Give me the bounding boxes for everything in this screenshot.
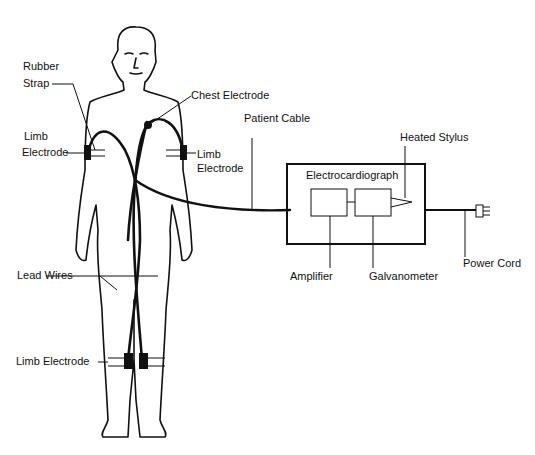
label-amplifier: Amplifier [290, 270, 333, 283]
label-patient-cable: Patient Cable [244, 112, 310, 125]
label-galvanometer: Galvanometer [369, 270, 438, 283]
label-lead-wires: Lead Wires [17, 269, 73, 282]
label-limb-electrode-left: Limb [24, 130, 48, 143]
label-heated-stylus: Heated Stylus [400, 131, 468, 144]
label-rubber-strap: Rubber [23, 60, 59, 73]
label-electrocardiograph: Electrocardiograph [306, 169, 398, 182]
label-limb-electrode-left-2: Electrode [22, 146, 68, 159]
label-chest-electrode: Chest Electrode [191, 89, 269, 102]
electrode-markers [84, 121, 187, 369]
label-limb-electrode-leg: Limb Electrode [16, 355, 89, 368]
diagram-drawing [0, 0, 535, 455]
label-power-cord: Power Cord [463, 257, 521, 270]
label-rubber-strap-2: Strap [23, 77, 49, 90]
label-limb-electrode-right-2: Electrode [197, 162, 243, 175]
ecg-diagram: Rubber Strap Chest Electrode Limb Electr… [0, 0, 535, 455]
label-limb-electrode-right: Limb [197, 148, 221, 161]
